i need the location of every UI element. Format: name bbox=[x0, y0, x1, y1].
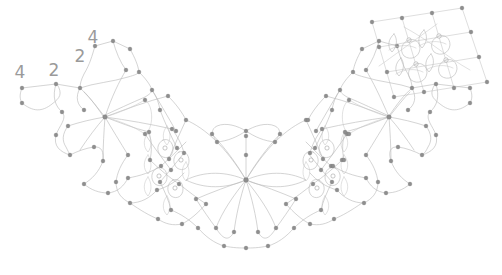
left-lace-panel bbox=[144, 90, 206, 215]
pattern-diagram-canvas: 4 2 2 4 bbox=[0, 0, 502, 275]
count-label-upper-outer: 4 bbox=[88, 27, 99, 47]
lattice-ornaments bbox=[379, 24, 470, 82]
numeral-labels: 4 2 2 4 bbox=[15, 27, 99, 82]
right-lace-panel bbox=[286, 90, 348, 215]
necklace-pattern-svg: 4 2 2 4 bbox=[0, 0, 502, 275]
count-label-upper-inner: 2 bbox=[75, 46, 86, 66]
bottom-scallop bbox=[130, 199, 362, 248]
count-label-left-outer: 4 bbox=[15, 62, 26, 82]
lattice-overlay bbox=[372, 8, 487, 97]
left-wing-strands bbox=[20, 41, 186, 203]
count-label-left-inner: 2 bbox=[49, 60, 60, 80]
